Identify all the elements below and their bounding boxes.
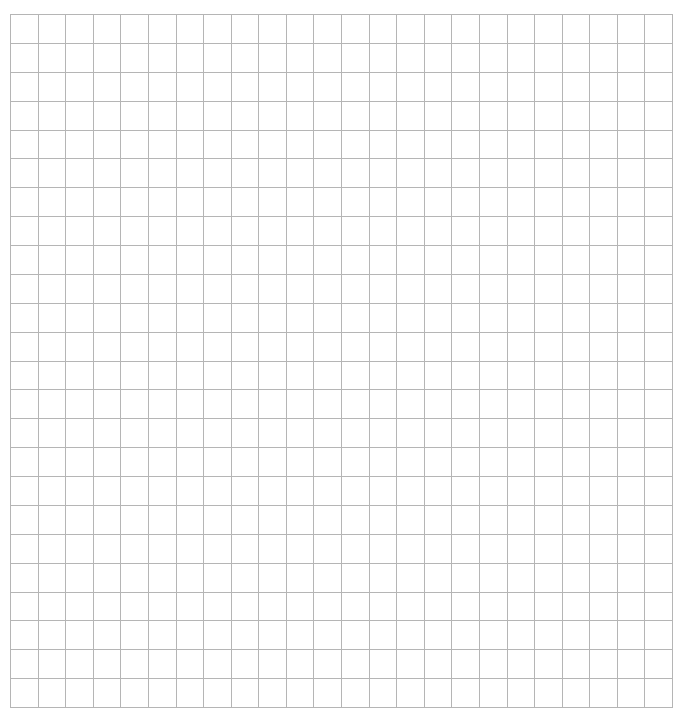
grid-cell	[535, 390, 563, 419]
grid-cell	[342, 390, 370, 419]
grid-cell	[563, 217, 591, 246]
grid-cell	[618, 650, 646, 679]
grid-cell	[204, 44, 232, 73]
grid-cell	[11, 419, 39, 448]
grid-cell	[39, 246, 67, 275]
grid-cell	[563, 535, 591, 564]
grid-cell	[342, 131, 370, 160]
grid-cell	[287, 593, 315, 622]
grid-cell	[177, 650, 205, 679]
grid-cell	[535, 679, 563, 708]
grid-cell	[287, 44, 315, 73]
grid-cell	[94, 593, 122, 622]
grid-cell	[94, 506, 122, 535]
grid-cell	[259, 679, 287, 708]
grid-cell	[397, 477, 425, 506]
grid-cell	[204, 131, 232, 160]
grid-cell	[342, 275, 370, 304]
grid-cell	[39, 44, 67, 73]
grid-cell	[232, 679, 260, 708]
grid-cell	[590, 448, 618, 477]
grid-cell	[452, 15, 480, 44]
grid-cell	[508, 419, 536, 448]
grid-cell	[149, 102, 177, 131]
grid-cell	[314, 448, 342, 477]
grid-cell	[370, 217, 398, 246]
grid-cell	[121, 246, 149, 275]
grid-cell	[535, 44, 563, 73]
grid-cell	[259, 477, 287, 506]
grid-cell	[397, 506, 425, 535]
grid-cell	[177, 15, 205, 44]
grid-cell	[370, 448, 398, 477]
grid-cell	[66, 390, 94, 419]
grid-cell	[11, 535, 39, 564]
grid-cell	[452, 650, 480, 679]
grid-cell	[508, 564, 536, 593]
grid-cell	[204, 448, 232, 477]
grid-cell	[287, 448, 315, 477]
grid-cell	[39, 159, 67, 188]
grid-cell	[11, 679, 39, 708]
grid-cell	[204, 275, 232, 304]
grid-cell	[618, 593, 646, 622]
grid-cell	[645, 304, 673, 333]
grid-cell	[66, 621, 94, 650]
grid-cell	[177, 188, 205, 217]
grid-cell	[480, 275, 508, 304]
grid-cell	[508, 246, 536, 275]
grid-cell	[39, 131, 67, 160]
grid-cell	[11, 217, 39, 246]
grid-cell	[232, 15, 260, 44]
grid-cell	[149, 188, 177, 217]
grid-cell	[452, 44, 480, 73]
grid-cell	[232, 621, 260, 650]
grid-cell	[480, 131, 508, 160]
grid-cell	[39, 419, 67, 448]
grid-cell	[397, 217, 425, 246]
grid-cell	[204, 390, 232, 419]
grid-cell	[232, 159, 260, 188]
grid-cell	[232, 44, 260, 73]
grid-cell	[204, 621, 232, 650]
grid-cell	[563, 44, 591, 73]
grid-cell	[39, 506, 67, 535]
grid-cell	[645, 621, 673, 650]
grid-cell	[618, 15, 646, 44]
grid-cell	[121, 275, 149, 304]
grid-cell	[94, 419, 122, 448]
grid-cell	[204, 217, 232, 246]
grid-cell	[480, 44, 508, 73]
grid-cell	[508, 362, 536, 391]
grid-cell	[590, 390, 618, 419]
grid-cell	[480, 304, 508, 333]
grid-cell	[314, 102, 342, 131]
grid-cell	[480, 621, 508, 650]
grid-cell	[535, 304, 563, 333]
grid-cell	[590, 217, 618, 246]
grid-cell	[342, 159, 370, 188]
grid-cell	[121, 362, 149, 391]
grid-cell	[314, 621, 342, 650]
grid-cell	[618, 362, 646, 391]
grid-cell	[149, 362, 177, 391]
grid-cell	[397, 650, 425, 679]
grid-cell	[425, 390, 453, 419]
grid-cell	[121, 477, 149, 506]
grid-cell	[11, 102, 39, 131]
grid-cell	[590, 679, 618, 708]
grid-cell	[39, 621, 67, 650]
grid-cell	[425, 44, 453, 73]
grid-cell	[66, 679, 94, 708]
grid-cell	[618, 246, 646, 275]
grid-cell	[535, 246, 563, 275]
grid-cell	[204, 593, 232, 622]
grid-cell	[480, 593, 508, 622]
grid-cell	[425, 73, 453, 102]
grid-cell	[508, 304, 536, 333]
grid-cell	[149, 650, 177, 679]
grid-cell	[66, 362, 94, 391]
grid-cell	[370, 275, 398, 304]
grid-cell	[452, 188, 480, 217]
grid-cell	[508, 275, 536, 304]
